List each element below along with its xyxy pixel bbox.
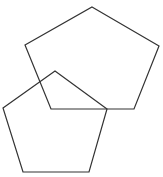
pentagon-lower-left: [3, 71, 107, 172]
pentagons-diagram: [0, 0, 163, 177]
pentagon-upper-right: [25, 7, 159, 109]
diagram-canvas: [0, 0, 163, 177]
